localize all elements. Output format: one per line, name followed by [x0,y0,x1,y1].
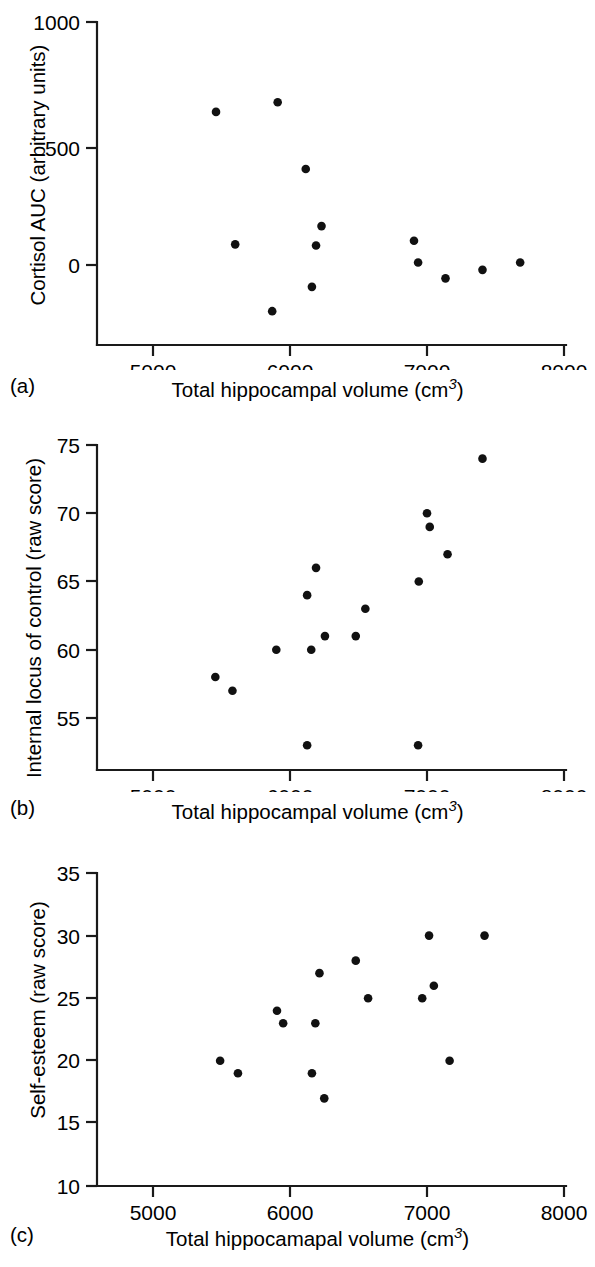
data-point [228,686,237,695]
data-point [351,632,360,641]
data-point [231,240,240,249]
panel-c-letter: (c) [10,1223,34,1247]
data-point [441,274,450,283]
panel-b-letter: (b) [10,796,35,820]
b-x-tick-label: 6000 [267,785,314,792]
panel-a-x-axis-label-suffix: ) [457,378,464,401]
panel-b-x-axis-label-text: Total hippocampal volume (cm [172,800,449,823]
data-point [315,969,324,978]
data-point [317,222,326,231]
data-point [212,108,221,117]
data-point [303,741,312,750]
c-x-tick-label: 5000 [130,1201,177,1220]
panel-b-x-axis-label-exponent: 3 [448,798,456,814]
data-point [211,673,220,682]
panel-a-y-axis-label-text: Cortisol AUC (arbitrary units) [26,45,49,306]
a-x-tick-label: 5000 [130,360,177,370]
b-y-tick-label: 75 [57,434,80,457]
panel-b-plot: 75706560555000600070008000 [0,420,595,792]
data-point [414,741,423,750]
panel-c-x-axis-title: Total hippocamapal volume (cm3) [0,1227,595,1251]
c-y-tick-label: 20 [57,1049,80,1072]
data-point [268,307,277,316]
data-point [312,564,321,573]
panel-b-y-axis-title: Internal locus of control (raw score) [22,438,46,798]
c-y-tick-label: 10 [57,1175,80,1198]
panel-b-x-axis-title: Total hippocampal volume (cm3) [0,800,595,824]
data-point [418,994,427,1003]
panel-b: 75706560555000600070008000 Internal locu… [0,420,595,840]
data-point [443,550,452,559]
a-y-tick-label: 500 [45,137,80,160]
c-x-tick-label: 8000 [541,1201,588,1220]
c-y-tick-label: 15 [57,1111,80,1134]
data-point [364,994,373,1003]
panel-a: 100050005000600070008000 Cortisol AUC (a… [0,0,595,420]
data-point [361,605,370,614]
data-point [273,98,282,107]
a-y-tick-label: 0 [68,254,80,277]
data-point [414,577,423,586]
data-point [425,931,434,940]
c-y-tick-label: 25 [57,987,80,1010]
data-point [516,258,525,267]
b-x-tick-label: 7000 [404,785,451,792]
panel-c-y-axis-label-text: Self-esteem (raw score) [26,901,49,1119]
data-point [234,1069,243,1078]
data-point [308,1069,317,1078]
panel-a-x-axis-label-text: Total hippocampal volume (cm [172,378,449,401]
data-point [312,241,321,250]
a-x-tick-label: 8000 [541,360,588,370]
panel-b-x-axis-label-suffix: ) [457,800,464,823]
c-y-tick-label: 35 [57,862,80,885]
b-y-tick-label: 55 [57,707,80,730]
panel-c: 3530252015105000600070008000 Self-esteem… [0,840,595,1267]
b-y-tick-label: 65 [57,570,80,593]
data-point [351,956,360,965]
data-point [308,283,317,292]
panel-c-plot: 3530252015105000600070008000 [0,840,595,1220]
b-x-tick-label: 8000 [541,785,588,792]
data-point [445,1057,454,1066]
data-point [303,591,312,600]
panel-a-x-axis-label-exponent: 3 [448,376,456,392]
panel-c-x-axis-label-text: Total hippocamapal volume (cm [166,1227,454,1250]
data-point [307,645,316,654]
data-point [301,165,310,174]
data-point [423,509,432,518]
c-x-tick-label: 7000 [404,1201,451,1220]
c-x-tick-label: 6000 [267,1201,314,1220]
panel-a-plot: 100050005000600070008000 [0,0,595,370]
b-x-tick-label: 5000 [130,785,177,792]
data-point [272,645,281,654]
data-point [216,1057,225,1066]
data-point [478,266,487,275]
panel-c-y-axis-title: Self-esteem (raw score) [26,860,50,1160]
data-point [478,454,487,463]
data-point [279,1019,288,1028]
data-point [410,236,419,245]
data-point [425,523,434,532]
panel-a-letter: (a) [10,374,35,398]
data-point [320,1094,329,1103]
figure-scatterplot-set: 100050005000600070008000 Cortisol AUC (a… [0,0,595,1267]
data-point [273,1006,282,1015]
data-point [480,931,489,940]
a-x-tick-label: 6000 [267,360,314,370]
panel-b-y-axis-label-text: Internal locus of control (raw score) [22,458,45,778]
data-point [414,258,423,267]
data-point [311,1019,320,1028]
b-y-tick-label: 60 [57,639,80,662]
c-y-tick-label: 30 [57,925,80,948]
a-x-tick-label: 7000 [404,360,451,370]
b-y-tick-label: 70 [57,502,80,525]
data-point [321,632,330,641]
panel-a-x-axis-title: Total hippocampal volume (cm3) [0,378,595,402]
data-point [430,981,439,990]
panel-c-x-axis-label-suffix: ) [462,1227,469,1250]
panel-a-y-axis-title: Cortisol AUC (arbitrary units) [26,10,50,340]
